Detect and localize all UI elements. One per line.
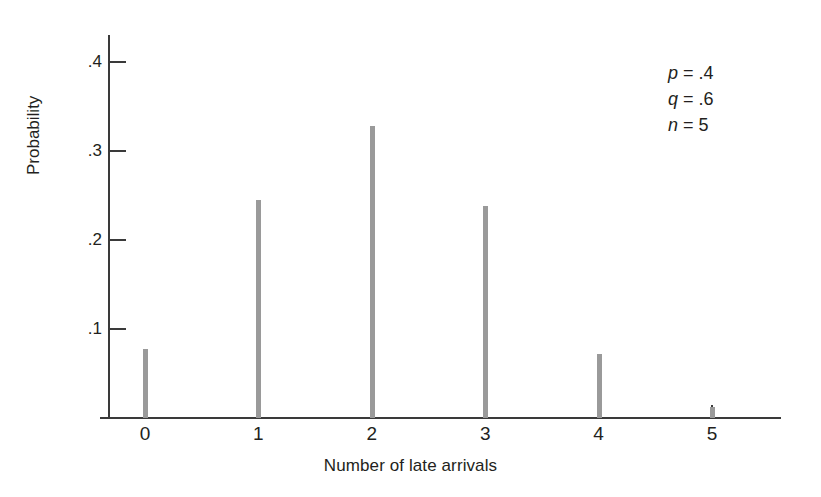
annotation-equals-p: = (683, 63, 694, 83)
y-tick-mark (110, 328, 126, 330)
annotation-equals-n: = (683, 115, 694, 135)
annotation-line-q: q = .6 (668, 86, 714, 112)
x-tick-label: 5 (692, 424, 732, 443)
annotation-equals-q: = (683, 89, 694, 109)
x-tick-label: 0 (125, 424, 165, 443)
spike-bar (143, 349, 148, 418)
y-axis-title: Probability (24, 96, 44, 175)
y-tick-mark (110, 239, 126, 241)
spike-bar (710, 407, 715, 418)
annotation-symbol-q: q (668, 89, 678, 109)
spike-bar (370, 126, 375, 418)
x-tick-label: 2 (352, 424, 392, 443)
annotation-value-n: 5 (699, 115, 709, 135)
x-axis-line (100, 417, 781, 419)
annotation-symbol-p: p (668, 63, 678, 83)
y-tick-label: .4 (62, 53, 102, 70)
x-tick-label: 1 (238, 424, 278, 443)
y-tick-label: .2 (62, 231, 102, 248)
annotation-line-p: p = .4 (668, 60, 714, 86)
y-axis-line (108, 35, 110, 419)
annotation-symbol-n: n (668, 115, 678, 135)
probability-chart: .1.2.3.4 012345 Number of late arrivals … (0, 0, 821, 497)
spike-bar (256, 200, 261, 418)
spike-bar (483, 206, 488, 418)
annotation-value-p: .4 (699, 63, 714, 83)
y-tick-label: .3 (62, 142, 102, 159)
y-tick-label: .1 (62, 320, 102, 337)
spike-bar (597, 354, 602, 418)
x-tick-label: 3 (465, 424, 505, 443)
y-tick-mark (110, 150, 126, 152)
annotation-line-n: n = 5 (668, 112, 714, 138)
annotation-value-q: .6 (699, 89, 714, 109)
x-axis-title: Number of late arrivals (0, 456, 821, 476)
y-tick-mark (110, 61, 126, 63)
parameter-annotation: p = .4 q = .6 n = 5 (668, 60, 714, 138)
x-tick-label: 4 (579, 424, 619, 443)
